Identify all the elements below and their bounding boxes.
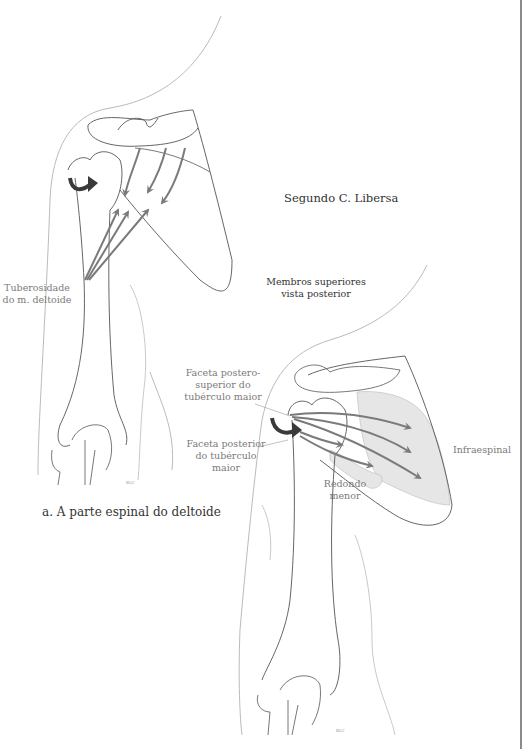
label-posterosuperior-facet: Faceta postero- superior do tubérculo ma… — [182, 367, 264, 403]
label-infraspinatus: Infraespinal — [452, 444, 512, 456]
figure-a-caption: a. A parte espinal do deltoide — [42, 505, 221, 519]
figure-a-signature: BLC — [126, 480, 135, 485]
label-teres-minor: Redondo menor — [320, 478, 370, 502]
book-page: Segundo C. Libersa Membros superiores vi… — [0, 0, 523, 749]
figure-subtitle: Membros superiores vista posterior — [266, 276, 366, 300]
page-edge-divider — [520, 0, 522, 749]
figure-b-signature: BLC — [336, 728, 345, 733]
figure-a-drawing — [38, 16, 232, 485]
label-tuberosity: Tuberosidade do m. deltoide — [2, 282, 72, 306]
author-name: Segundo C. Libersa — [284, 191, 398, 205]
label-posterior-facet: Faceta posterior do tubérculo maior — [180, 438, 272, 474]
